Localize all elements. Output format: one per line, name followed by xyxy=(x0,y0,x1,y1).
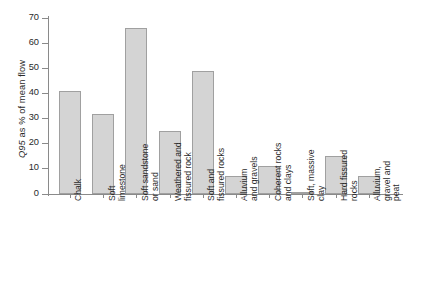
x-tick-mark xyxy=(136,194,137,198)
x-tick-label: Alluvium, gravel and peat xyxy=(373,147,402,201)
x-tick-label: Weathered and fissured rock xyxy=(174,142,193,201)
x-tick-mark xyxy=(103,194,104,198)
x-tick-mark xyxy=(203,194,204,198)
bar-chart-figure: Q95 as % of mean flow 010203040506070 Ch… xyxy=(0,0,427,283)
x-tick-label: Soft and fissured rocks xyxy=(207,148,226,201)
x-tick-mark xyxy=(70,194,71,198)
y-tick-label: 50 xyxy=(29,62,39,72)
y-axis-label: Q95 as % of mean flow xyxy=(17,29,27,189)
y-tick-label: 0 xyxy=(34,188,39,198)
y-tick-label: 60 xyxy=(29,37,39,47)
x-tick-label: Coherent rocks and clays xyxy=(274,143,293,201)
y-axis-label-italic: Q95 xyxy=(17,140,27,158)
y-tick-label: 30 xyxy=(29,112,39,122)
x-tick-label: Soft sandstone or sand xyxy=(141,144,160,201)
x-tick-label: Soft, massive clay xyxy=(307,149,326,201)
y-axis-label-rest: as % of mean flow xyxy=(17,60,27,140)
x-tick-label: Hard fissured rocks xyxy=(340,150,359,201)
y-tick-label: 10 xyxy=(29,162,39,172)
y-tick-label: 40 xyxy=(29,87,39,97)
x-tick-mark xyxy=(369,194,370,198)
x-tick-label: Soft limestone xyxy=(108,164,127,201)
x-tick-label: Chalk xyxy=(74,179,84,201)
x-tick-mark xyxy=(236,194,237,198)
x-tick-label: Alluvium and gravels xyxy=(240,157,259,201)
x-tick-mark xyxy=(302,194,303,198)
x-tick-mark xyxy=(269,194,270,198)
x-tick-mark xyxy=(336,194,337,198)
y-tick-label: 20 xyxy=(29,137,39,147)
y-tick-label: 70 xyxy=(29,12,39,22)
x-tick-mark xyxy=(170,194,171,198)
